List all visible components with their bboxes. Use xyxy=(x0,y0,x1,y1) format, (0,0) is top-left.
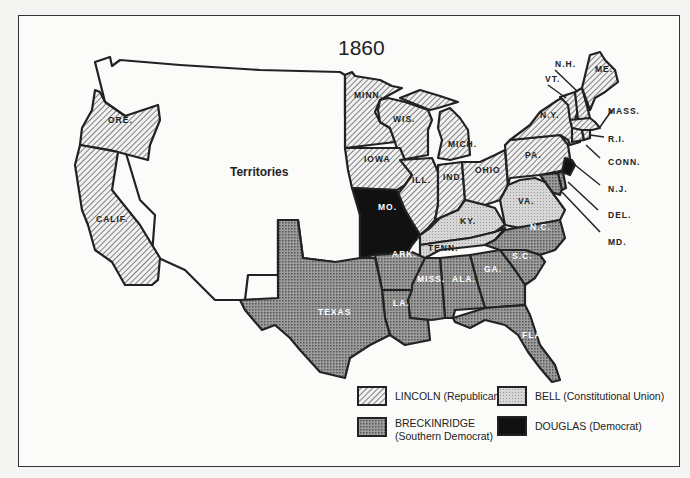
legend-label-bell: BELL (Constitutional Union) xyxy=(535,390,664,403)
legend-label-douglas: DOUGLAS (Democrat) xyxy=(535,420,642,433)
label-va: VA. xyxy=(518,196,535,206)
territories-label: Territories xyxy=(230,165,289,179)
label-ky: KY. xyxy=(460,216,476,226)
label-ohio: OHIO xyxy=(475,165,501,175)
label-la: LA. xyxy=(393,298,410,308)
label-sc: S.C. xyxy=(512,251,533,261)
legend-swatch-breckinridge xyxy=(357,417,387,437)
label-tenn: TENN. xyxy=(428,243,459,253)
legend-label-lincoln: LINCOLN (Republican) xyxy=(395,390,503,403)
legend-label-breckinridge-line1: BRECKINRIDGE xyxy=(395,417,493,430)
legend-label-breckinridge-line2: (Southern Democrat) xyxy=(395,430,493,443)
election-map-1860: Territories ORE. CALIF. MINN. WIS. IOWA … xyxy=(0,0,690,478)
label-mass: MASS. xyxy=(608,106,640,116)
label-ny: N.Y. xyxy=(540,110,560,120)
label-miss: MISS. xyxy=(417,274,445,284)
state-rhode-island[interactable] xyxy=(582,130,590,140)
label-vt: VT. xyxy=(545,74,560,84)
label-ore: ORE. xyxy=(108,115,133,125)
label-texas: TEXAS xyxy=(318,307,351,317)
label-minn: MINN. xyxy=(354,90,383,100)
label-pa: PA. xyxy=(525,150,542,160)
label-ri: R.I. xyxy=(608,134,625,144)
label-fla: FLA. xyxy=(522,330,545,340)
label-nj: N.J. xyxy=(608,184,628,194)
label-del: DEL. xyxy=(608,210,631,220)
state-florida[interactable] xyxy=(453,305,560,382)
legend-swatch-douglas xyxy=(497,416,527,436)
label-ga: GA. xyxy=(484,264,502,274)
label-calif: CALIF. xyxy=(96,214,128,224)
label-conn: CONN. xyxy=(608,157,640,167)
label-ark: ARK. xyxy=(392,249,417,259)
legend-label-breckinridge: BRECKINRIDGE (Southern Democrat) xyxy=(395,417,493,443)
label-ill: ILL. xyxy=(412,175,431,185)
label-me: ME. xyxy=(595,64,613,74)
label-ind: IND. xyxy=(443,172,464,182)
label-md: MD. xyxy=(608,237,627,247)
label-wis: WIS. xyxy=(393,114,415,124)
legend-swatch-lincoln xyxy=(357,386,387,406)
label-ala: ALA. xyxy=(452,274,476,284)
map-title: 1860 xyxy=(338,36,385,60)
label-nh: N.H. xyxy=(555,59,576,69)
label-iowa: IOWA xyxy=(364,154,391,164)
label-nc: N.C. xyxy=(530,222,551,232)
state-maine[interactable] xyxy=(582,52,618,110)
legend-swatch-bell xyxy=(497,386,527,406)
label-mich: MICH. xyxy=(448,139,477,149)
label-mo: MO. xyxy=(378,202,397,212)
